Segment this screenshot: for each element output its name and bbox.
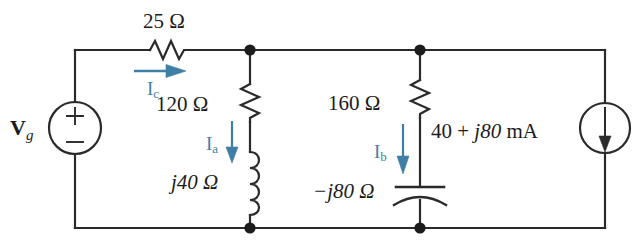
node-dots [244,44,425,233]
label-voltage-source-main: V [10,115,26,140]
current-source-operator: + [457,119,469,143]
label-current-source-value: 40 + j80 mA [431,121,538,142]
current-source-unit: mA [506,119,538,143]
node-dot-bottom-right [414,222,425,233]
circuit-diagram: 25 Ω Ic 120 Ω Ia j40 Ω 160 Ω Ib −j80 Ω 4… [0,0,644,248]
label-current-Ib-sub: b [380,149,387,164]
resistor-25-ohm-symbol [150,41,186,59]
label-resistor-120-ohm: 120 Ω [156,94,208,115]
label-current-Ib: Ib [374,142,387,163]
current-arrow-Ic [134,65,186,78]
label-resistor-25-ohm: 25 Ω [143,11,185,32]
node-dot-bottom-middle [244,222,255,233]
label-voltage-source-Vg: Vg [10,117,33,143]
resistor-120-ohm-symbol [241,84,259,122]
label-resistor-160-ohm: 160 Ω [328,93,380,114]
plus-sign-icon [67,108,83,124]
circuit-schematic-svg [0,0,644,248]
node-dot-top-middle [244,44,255,55]
label-current-Ia-sub: a [212,141,218,156]
current-source-arrow-icon [599,107,611,152]
current-arrow-Ia [226,121,238,163]
label-capacitor-minus-j80-ohm: −j80 Ω [313,181,374,202]
resistor-160-ohm-symbol [411,80,429,118]
current-arrow-Ib [397,124,409,174]
label-voltage-source-sub: g [26,127,34,143]
inductor-j40-ohm-symbol [250,152,259,215]
label-inductor-j40-ohm: j40 Ω [171,172,218,193]
current-source-real: 40 [431,119,452,143]
node-dot-top-right [414,44,425,55]
current-source-imag: j80 [474,119,501,143]
label-current-Ia: Ia [206,134,218,155]
